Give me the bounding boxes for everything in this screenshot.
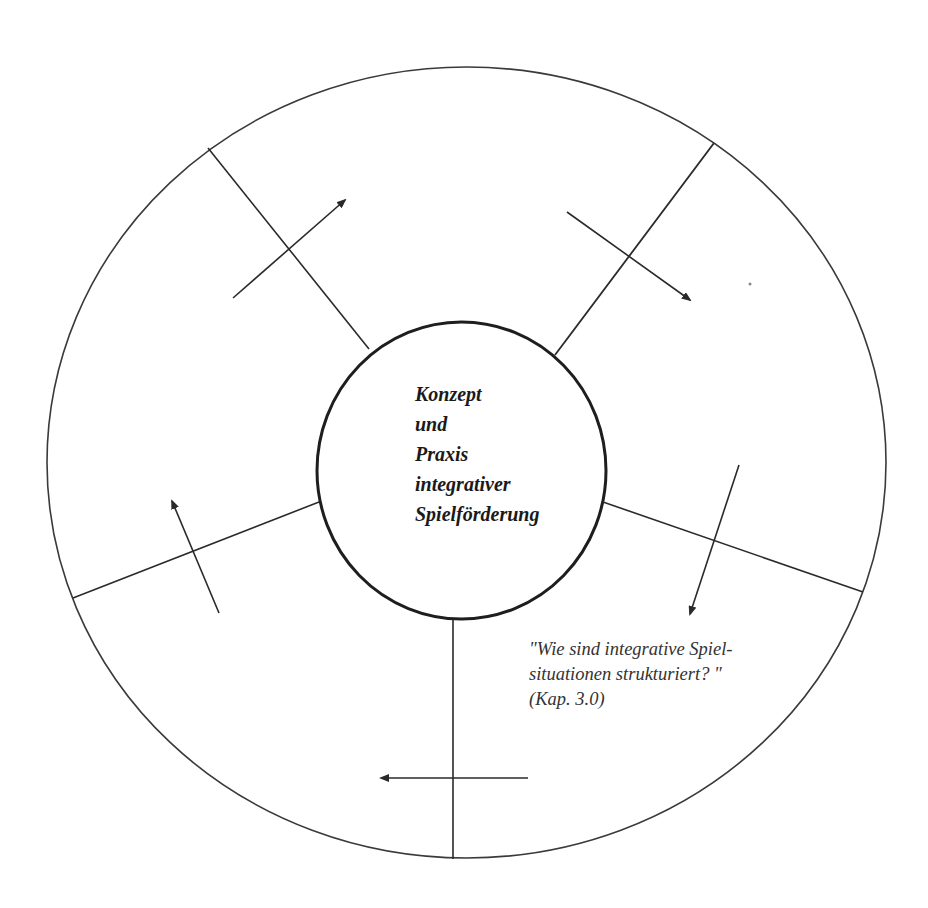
center-title-line: und <box>415 409 539 439</box>
center-title: Konzept und Praxis integrativer Spielför… <box>415 379 539 529</box>
center-title-line: Spielförderung <box>415 499 539 529</box>
annotation-line: situationen strukturiert? " <box>529 662 733 687</box>
scan-speck <box>749 283 752 286</box>
divider-right <box>603 502 863 592</box>
center-title-line: Praxis <box>415 439 539 469</box>
arrow-right-icon <box>690 465 739 614</box>
annotation-line: (Kap. 3.0) <box>529 687 733 712</box>
divider-left <box>73 502 319 598</box>
arrow-upper-right-icon <box>567 212 690 300</box>
center-title-line: Konzept <box>415 379 539 409</box>
arrow-upper-left-icon <box>233 200 345 298</box>
annotation-line: "Wie sind integrative Spiel- <box>529 637 733 662</box>
divider-upper-right <box>555 143 714 355</box>
center-title-line: integrativer <box>415 469 539 499</box>
segment-annotation: "Wie sind integrative Spiel- situationen… <box>529 637 733 712</box>
